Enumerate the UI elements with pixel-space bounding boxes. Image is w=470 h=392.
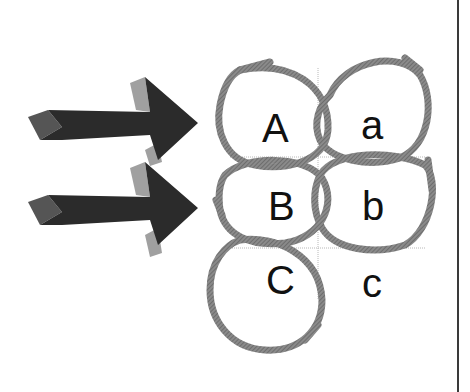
label-b: b: [362, 186, 384, 226]
diagram-graphics: [0, 0, 470, 392]
label-c: c: [362, 263, 382, 303]
circles: [210, 58, 432, 350]
bottom-arrow-icon: [28, 162, 198, 257]
label-a: a: [361, 105, 383, 145]
diagram-canvas: A a B b C c: [0, 0, 470, 392]
label-B: B: [268, 186, 295, 226]
right-border-line: [457, 0, 459, 392]
label-A: A: [262, 108, 289, 148]
top-arrow-icon: [28, 77, 198, 166]
label-C: C: [266, 260, 295, 300]
